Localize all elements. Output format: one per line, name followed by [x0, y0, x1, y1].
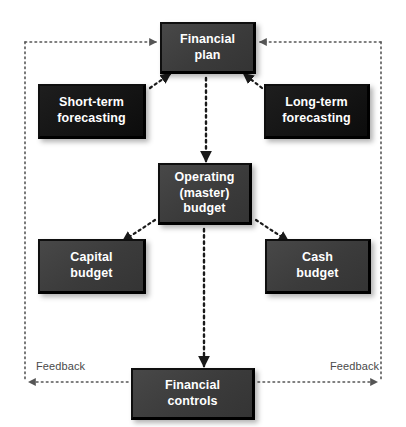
connector-operating-budget-to-capital-budget	[123, 220, 155, 241]
feedback-label-left: Feedback	[36, 360, 85, 372]
financial-planning-diagram: Financial plan Short-term forecasting Lo…	[0, 0, 406, 427]
node-financial-plan[interactable]: Financial plan	[160, 22, 256, 74]
node-financial-controls[interactable]: Financial controls	[131, 368, 255, 420]
connector-operating-budget-to-cash-budget	[256, 220, 288, 241]
node-cash-budget-label: Cash budget	[292, 250, 342, 281]
node-long-term-forecasting-label: Long-term forecasting	[278, 95, 354, 126]
node-operating-master-budget-label: Operating (master) budget	[171, 170, 239, 217]
node-financial-controls-label: Financial controls	[161, 378, 224, 409]
node-capital-budget[interactable]: Capital budget	[38, 239, 146, 294]
node-short-term-forecasting[interactable]: Short-term forecasting	[38, 84, 146, 139]
node-operating-master-budget[interactable]: Operating (master) budget	[158, 163, 252, 225]
connector-short-term-to-financial-plan	[150, 74, 170, 88]
feedback-label-right: Feedback	[330, 360, 379, 372]
connector-long-term-to-financial-plan	[244, 74, 262, 88]
node-capital-budget-label: Capital budget	[66, 250, 116, 281]
node-financial-plan-label: Financial plan	[176, 32, 239, 63]
node-long-term-forecasting[interactable]: Long-term forecasting	[264, 84, 370, 139]
node-cash-budget[interactable]: Cash budget	[265, 239, 371, 294]
node-short-term-forecasting-label: Short-term forecasting	[53, 95, 129, 126]
